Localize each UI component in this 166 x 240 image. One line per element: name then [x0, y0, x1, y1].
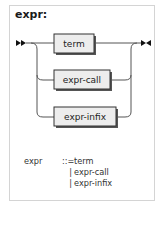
grammar-rule-text: term [74, 156, 93, 167]
grammar-row: | expr-infix [24, 178, 112, 189]
grammar-spacer [24, 178, 62, 189]
grammar-lhs: expr [24, 156, 62, 167]
grammar-row: | expr-call [24, 167, 112, 178]
grammar-spacer [24, 167, 62, 178]
grammar-alt-bar: | [62, 178, 74, 189]
node-term-label: term [63, 39, 84, 49]
left-branch-call [37, 75, 54, 80]
right-branch-call [112, 75, 131, 80]
start-marker-icon [16, 40, 26, 46]
node-expr-call[interactable]: expr-call [54, 70, 112, 91]
grammar-rule-text: expr-infix [74, 178, 112, 189]
node-expr-infix[interactable]: expr-infix [54, 107, 118, 128]
grammar-rule-text: expr-call [74, 167, 109, 178]
end-marker-icon [141, 40, 151, 46]
grammar-operator: ::= [62, 156, 74, 167]
node-expr-call-label: expr-call [63, 75, 101, 85]
grammar-definition: expr ::= term | expr-call | expr-infix [24, 156, 112, 189]
node-expr-infix-label: expr-infix [64, 112, 107, 122]
grammar-row: expr ::= term [24, 156, 112, 167]
node-term[interactable]: term [54, 34, 96, 55]
grammar-alt-bar: | [62, 167, 74, 178]
